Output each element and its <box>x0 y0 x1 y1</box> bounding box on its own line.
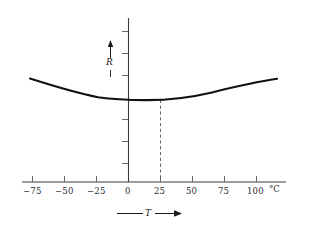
x-tick-label-50: 50 <box>186 186 197 196</box>
x-tick-label--75: −75 <box>23 186 42 196</box>
x-tick-label-75: 75 <box>218 186 229 196</box>
x-tick-label-25: 25 <box>154 186 165 196</box>
x-tick-label-100: 100 <box>247 186 264 196</box>
x-axis-label-t: T <box>145 208 151 218</box>
x-tick-label--25: −25 <box>87 186 106 196</box>
x-axis-unit-degc: °C <box>269 184 280 194</box>
x-tick-label-0: 0 <box>125 186 131 196</box>
y-axis-label-r: R <box>106 57 113 67</box>
x-tick-label--50: −50 <box>55 186 74 196</box>
